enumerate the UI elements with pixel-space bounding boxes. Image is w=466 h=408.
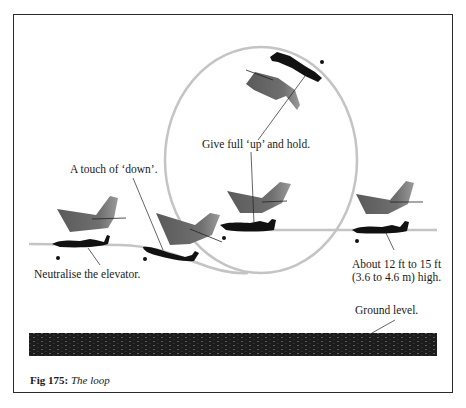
leader-height [386, 233, 394, 250]
figure-caption: Fig 175: The loop [30, 374, 110, 386]
label-touch-of-down: A touch of ‘down’. [70, 163, 158, 176]
caption-title: The loop [71, 374, 110, 386]
label-give-full-up: Give full ‘up’ and hold. [202, 138, 310, 151]
label-height-line1: About 12 ft to 15 ft [352, 258, 441, 271]
plane-shadow-4 [246, 70, 300, 110]
caption-number: Fig 175: [30, 374, 68, 386]
aircraft-2 [143, 247, 199, 261]
leader-give-full-up-bottom [251, 152, 254, 224]
label-ground-level: Ground level. [355, 304, 418, 317]
plane-shadow-3 [227, 182, 291, 213]
ground-bar [29, 333, 437, 356]
plane-shadow-2 [156, 213, 222, 245]
label-neutralise: Neutralise the elevator. [34, 268, 140, 281]
label-height-line2: (3.6 to 4.6 m) high. [352, 271, 441, 284]
plane-shadow-5 [356, 181, 423, 214]
loop-diagram [0, 0, 466, 408]
aircraft-5 [352, 221, 409, 243]
leader-ground-level [372, 320, 395, 333]
aircraft-3 [220, 219, 276, 240]
leader-neutralise [88, 248, 100, 265]
plane-shadow-1 [57, 196, 126, 232]
aircraft-1 [52, 235, 110, 260]
